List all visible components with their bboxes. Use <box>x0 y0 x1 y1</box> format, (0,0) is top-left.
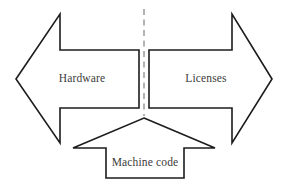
licenses-label: Licenses <box>185 73 226 85</box>
machine-code-label: Machine code <box>112 157 179 169</box>
machine-code-arrow-shape[interactable] <box>73 118 215 178</box>
diagram-canvas: Hardware Licenses Machine code <box>0 0 284 191</box>
hardware-label: Hardware <box>59 73 106 85</box>
